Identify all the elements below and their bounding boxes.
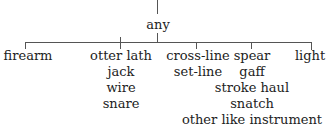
branch-light: light xyxy=(295,48,325,64)
branch-item: light xyxy=(295,48,325,64)
horizontal-bar xyxy=(25,42,312,43)
branch-item: snatch xyxy=(182,96,322,112)
branch-item: jack xyxy=(90,64,152,80)
branch-item: gaff xyxy=(182,64,322,80)
branch-firearm: firearm xyxy=(4,48,53,64)
branch-item: snare xyxy=(90,96,152,112)
branch-item: firearm xyxy=(4,48,53,64)
branch-item: wire xyxy=(90,80,152,96)
branch-item: otter lath xyxy=(90,48,152,64)
branch-otter-lath: otter lath jack wire snare xyxy=(90,48,152,112)
root-node: any xyxy=(146,17,169,32)
branch-item: other like instrument xyxy=(182,112,322,128)
root-stem-line xyxy=(157,0,158,14)
branch-item: stroke haul xyxy=(182,80,322,96)
